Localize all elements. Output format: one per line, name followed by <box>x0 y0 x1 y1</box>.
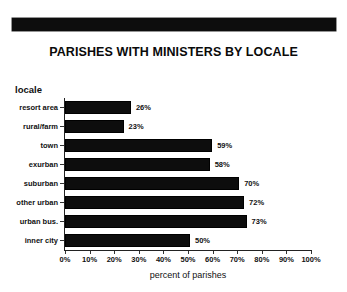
x-tick-label: 70% <box>230 255 245 264</box>
x-tick-label: 90% <box>279 255 294 264</box>
x-tick-mark <box>188 251 189 254</box>
bar-row: exurban58% <box>0 155 347 174</box>
category-label: suburban <box>0 174 58 193</box>
x-tick-mark <box>90 251 91 254</box>
bar-value-label: 58% <box>215 155 230 174</box>
x-axis-title: percent of parishes <box>64 270 312 280</box>
x-tick-mark <box>237 251 238 254</box>
bar <box>65 158 210 171</box>
chart-title: PARISHES WITH MINISTERS BY LOCALE <box>0 45 347 59</box>
category-label: rural/farm <box>0 117 58 136</box>
x-tick-mark <box>139 251 140 254</box>
x-tick-mark <box>114 251 115 254</box>
x-tick-label: 100% <box>301 255 320 264</box>
category-label: urban bus. <box>0 212 58 231</box>
x-tick-label: 10% <box>82 255 97 264</box>
y-axis-line <box>64 98 65 250</box>
bar <box>65 234 190 247</box>
x-tick-mark <box>286 251 287 254</box>
bar-chart: locale resort area26%rural/farm23%town59… <box>0 72 347 292</box>
header-rule <box>12 18 336 31</box>
bar-row: urban bus.73% <box>0 212 347 231</box>
bar-row: resort area26% <box>0 98 347 117</box>
x-tick-mark <box>65 251 66 254</box>
category-label: resort area <box>0 98 58 117</box>
x-tick-label: 20% <box>107 255 122 264</box>
bar <box>65 120 124 133</box>
y-axis-title: locale <box>15 84 42 95</box>
bar-value-label: 59% <box>217 136 232 155</box>
bar-row: suburban70% <box>0 174 347 193</box>
bar-value-label: 23% <box>129 117 144 136</box>
category-label: town <box>0 136 58 155</box>
bar-row: other urban72% <box>0 193 347 212</box>
bar-row: inner city50% <box>0 231 347 250</box>
x-tick-label: 80% <box>254 255 269 264</box>
bar-value-label: 72% <box>249 193 264 212</box>
category-label: other urban <box>0 193 58 212</box>
bar-value-label: 70% <box>244 174 259 193</box>
bar <box>65 101 131 114</box>
bar <box>65 177 239 190</box>
bar-value-label: 26% <box>136 98 151 117</box>
bar-value-label: 50% <box>195 231 210 250</box>
bar-row: town59% <box>0 136 347 155</box>
x-tick-label: 50% <box>180 255 195 264</box>
bar-value-label: 73% <box>252 212 267 231</box>
x-tick-mark <box>213 251 214 254</box>
bar-rows: resort area26%rural/farm23%town59%exurba… <box>0 98 347 250</box>
x-tick-mark <box>262 251 263 254</box>
x-tick-label: 30% <box>131 255 146 264</box>
x-tick-label: 60% <box>205 255 220 264</box>
x-tick-label: 40% <box>156 255 171 264</box>
x-tick-mark <box>311 251 312 254</box>
bar-row: rural/farm23% <box>0 117 347 136</box>
category-label: inner city <box>0 231 58 250</box>
x-axis-ticks: 0%10%20%30%40%50%60%70%80%90%100% <box>0 251 347 267</box>
category-label: exurban <box>0 155 58 174</box>
bar <box>65 215 247 228</box>
bar <box>65 139 212 152</box>
x-tick-label: 0% <box>60 255 71 264</box>
bar <box>65 196 244 209</box>
x-tick-mark <box>163 251 164 254</box>
